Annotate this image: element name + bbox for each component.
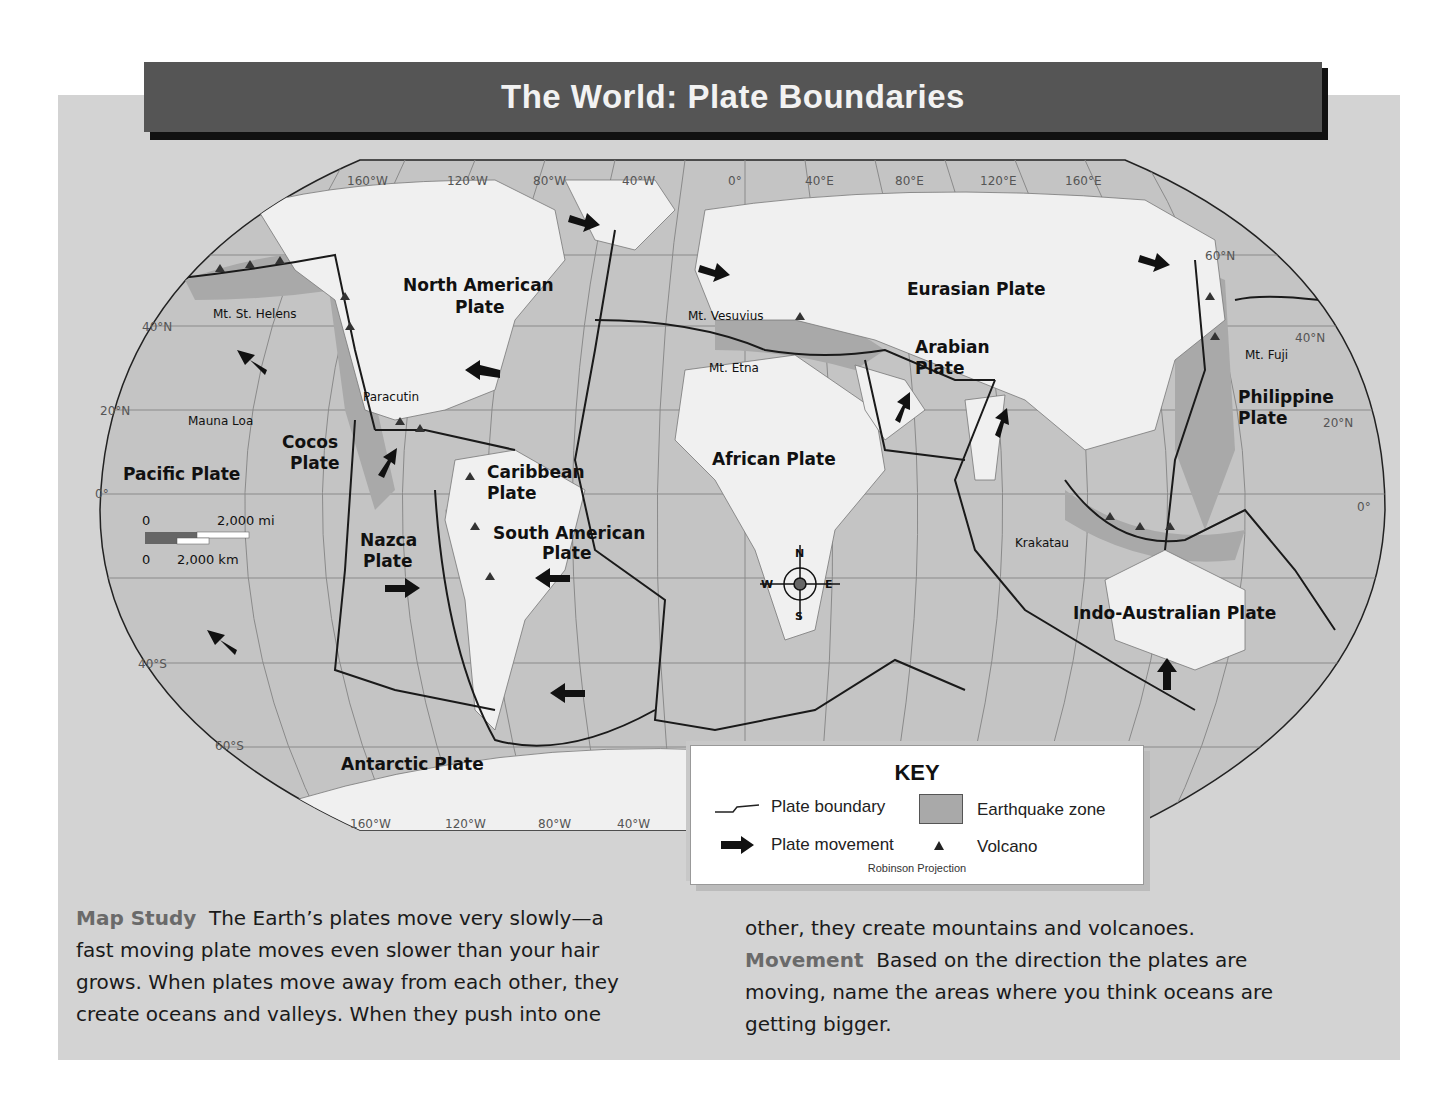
- label-indo-australian-plate: Indo-Australian Plate: [1073, 603, 1276, 623]
- svg-text:20°N: 20°N: [100, 404, 130, 418]
- label-philippine-plate: Philippine: [1238, 387, 1334, 407]
- svg-text:40°S: 40°S: [138, 657, 167, 671]
- svg-text:40°N: 40°N: [142, 320, 172, 334]
- svg-text:160°W: 160°W: [347, 174, 388, 188]
- svg-text:0: 0: [142, 552, 150, 567]
- svg-text:Plate: Plate: [915, 358, 964, 378]
- svg-text:Plate: Plate: [455, 297, 504, 317]
- caption-left: Map Study The Earth’s plates move very s…: [76, 902, 716, 1030]
- label-antarctic-plate: Antarctic Plate: [341, 754, 484, 774]
- key-title: KEY: [691, 760, 1143, 786]
- svg-text:Plate: Plate: [1238, 408, 1287, 428]
- svg-text:0°: 0°: [728, 174, 742, 188]
- svg-text:160°E: 160°E: [1065, 174, 1102, 188]
- volcano-triangle-icon: [934, 841, 944, 850]
- svg-text:60°S: 60°S: [215, 739, 244, 753]
- svg-text:40°W: 40°W: [622, 174, 655, 188]
- page-title: The World: Plate Boundaries: [501, 78, 965, 116]
- svg-text:Plate: Plate: [363, 551, 412, 571]
- svg-text:Plate: Plate: [487, 483, 536, 503]
- label-cocos-plate: Cocos: [282, 432, 338, 452]
- earthquake-zone-swatch: [919, 794, 963, 824]
- svg-text:Krakatau: Krakatau: [1015, 536, 1069, 550]
- label-arabian-plate: Arabian: [915, 337, 990, 357]
- svg-text:2,000 mi: 2,000 mi: [217, 513, 275, 528]
- projection-label: Robinson Projection: [691, 862, 1143, 874]
- svg-text:Mt. Fuji: Mt. Fuji: [1245, 348, 1288, 362]
- label-caribbean-plate: Caribbean: [487, 462, 585, 482]
- svg-text:0°: 0°: [95, 487, 109, 501]
- plate-boundary-icon: [713, 803, 763, 815]
- svg-text:120°W: 120°W: [447, 174, 488, 188]
- key-earthquake-zone: Earthquake zone: [977, 800, 1106, 820]
- caption-lead-movement: Movement: [745, 948, 863, 972]
- svg-text:Plate: Plate: [290, 453, 339, 473]
- title-bar: The World: Plate Boundaries: [144, 62, 1322, 132]
- label-nazca-plate: Nazca: [360, 530, 417, 550]
- svg-text:80°W: 80°W: [538, 817, 571, 831]
- svg-text:Mt. Vesuvius: Mt. Vesuvius: [688, 309, 764, 323]
- map-key: KEY Plate boundary Earthquake zone Plate…: [690, 745, 1144, 885]
- svg-text:0°: 0°: [1357, 500, 1371, 514]
- key-volcano: Volcano: [977, 837, 1038, 857]
- svg-text:120°W: 120°W: [445, 817, 486, 831]
- svg-text:160°W: 160°W: [350, 817, 391, 831]
- label-eurasian-plate: Eurasian Plate: [907, 279, 1045, 299]
- label-north-american-plate: North American: [403, 275, 554, 295]
- svg-text:2,000 km: 2,000 km: [177, 552, 239, 567]
- label-african-plate: African Plate: [712, 449, 836, 469]
- svg-text:120°E: 120°E: [980, 174, 1017, 188]
- world-map: N S E W North American Plate Eurasian Pl…: [95, 150, 1390, 840]
- svg-text:40°E: 40°E: [805, 174, 834, 188]
- svg-text:40°W: 40°W: [617, 817, 650, 831]
- label-pacific-plate: Pacific Plate: [123, 464, 240, 484]
- svg-text:Mt. Etna: Mt. Etna: [709, 361, 759, 375]
- label-south-american-plate: South American: [493, 523, 645, 543]
- svg-text:20°N: 20°N: [1323, 416, 1353, 430]
- svg-text:80°E: 80°E: [895, 174, 924, 188]
- caption-right: other, they create mountains and volcano…: [745, 912, 1385, 1040]
- svg-text:Mauna Loa: Mauna Loa: [188, 414, 253, 428]
- svg-text:W: W: [761, 578, 773, 591]
- svg-text:E: E: [825, 578, 833, 591]
- svg-text:0: 0: [142, 513, 150, 528]
- svg-text:40°N: 40°N: [1295, 331, 1325, 345]
- svg-text:S: S: [795, 610, 803, 623]
- svg-text:Mt. St. Helens: Mt. St. Helens: [213, 307, 297, 321]
- key-plate-boundary: Plate boundary: [771, 797, 885, 817]
- svg-text:Paracutin: Paracutin: [363, 390, 419, 404]
- caption-lead-map-study: Map Study: [76, 906, 196, 930]
- svg-text:60°N: 60°N: [1205, 249, 1235, 263]
- svg-text:N: N: [795, 547, 804, 560]
- svg-text:Plate: Plate: [542, 543, 591, 563]
- plate-movement-arrow-icon: [721, 836, 755, 854]
- svg-text:80°W: 80°W: [533, 174, 566, 188]
- key-plate-movement: Plate movement: [771, 835, 894, 855]
